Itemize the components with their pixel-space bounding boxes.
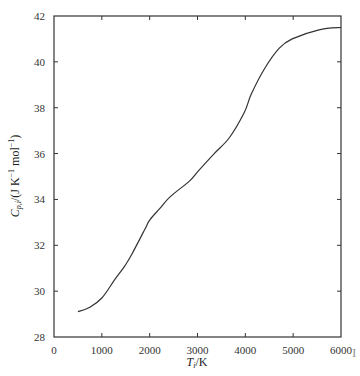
plot-frame [54,16,341,337]
x-tick-label: 0 [51,344,57,356]
y-axis-label: Cp,i/(J K−1 mol−1) [7,135,23,218]
cp-vs-temperature-chart: 2830323436384042 01000200030004000500060… [0,0,360,376]
y-tick-label: 36 [34,148,46,160]
edge-mark: I [352,345,356,360]
cp-curve [78,28,341,312]
y-tick-label: 38 [34,102,46,114]
y-tick-label: 32 [34,239,45,251]
x-axis-ticks: 0100020003000400050006000 [51,16,352,356]
y-tick-label: 28 [34,331,46,343]
y-tick-label: 42 [34,10,45,22]
y-tick-label: 40 [34,56,46,68]
x-tick-label: 5000 [282,344,305,356]
x-tick-label: 2000 [139,344,162,356]
x-axis-label: Ti/K [187,355,208,370]
x-tick-label: 4000 [234,344,257,356]
y-tick-label: 34 [34,193,46,205]
x-tick-label: 6000 [330,344,353,356]
y-axis-ticks: 2830323436384042 [34,10,341,343]
x-tick-label: 1000 [91,344,114,356]
y-tick-label: 30 [34,285,46,297]
